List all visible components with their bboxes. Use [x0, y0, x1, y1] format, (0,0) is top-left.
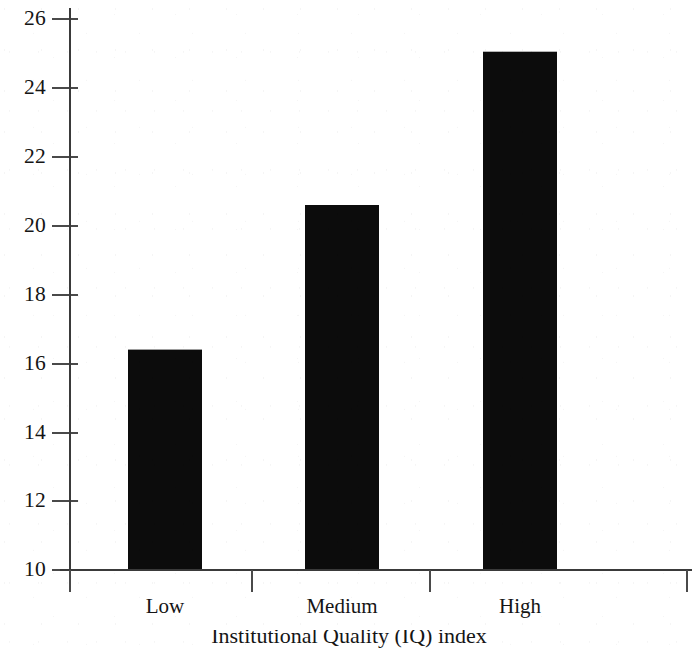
bar-chart: 26 24 22 20 18 16 14 12 10 Low Medium Hi…: [0, 0, 698, 649]
bar-low: [128, 350, 202, 570]
y-tick-text: 12: [24, 490, 46, 512]
bar-high: [483, 52, 557, 570]
chart-canvas: [0, 0, 698, 649]
x-tick-label-high: High: [499, 596, 541, 617]
y-tick-text: 26: [24, 8, 46, 30]
y-tick-text: 16: [24, 353, 46, 375]
x-tick-label-low: Low: [146, 596, 185, 617]
y-axis-ticks: [52, 19, 78, 570]
bars-group: [128, 52, 557, 570]
y-tick-text: 24: [24, 77, 46, 99]
bar-medium: [305, 205, 379, 570]
y-tick-text: 22: [24, 146, 46, 168]
y-tick-text: 20: [24, 215, 46, 237]
x-axis-title: Institutional Quality (IQ) index: [0, 630, 698, 647]
y-tick-text: 10: [24, 559, 46, 581]
x-axis-ticks: [70, 570, 687, 592]
x-axis-title-clip: Institutional Quality (IQ) index: [0, 630, 698, 649]
y-tick-text: 18: [24, 284, 46, 306]
x-tick-label-medium: Medium: [306, 596, 377, 617]
y-tick-text: 14: [24, 422, 46, 444]
